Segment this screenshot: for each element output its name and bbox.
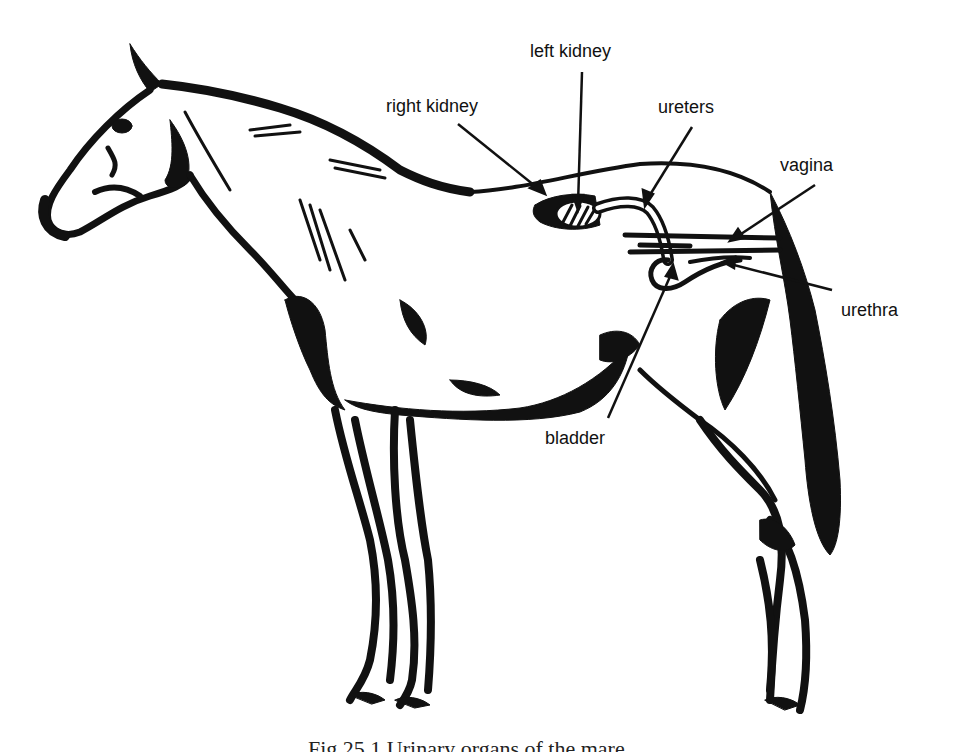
ear-shape: [130, 44, 162, 92]
front-legs: [335, 410, 431, 705]
diagram-canvas: left kidney right kidney ureters vagina …: [0, 0, 954, 752]
label-right-kidney: right kidney: [386, 97, 478, 115]
tail: [770, 192, 841, 555]
back-line: [470, 163, 770, 192]
neck-front: [190, 175, 295, 300]
label-ureters: ureters: [658, 98, 714, 116]
hind-legs: [700, 420, 806, 710]
head-outline: [47, 90, 190, 234]
label-vagina: vagina: [780, 156, 833, 174]
eye-shape: [112, 119, 132, 133]
belly-line: [345, 345, 630, 420]
figure-caption: Fig 25.1 Urinary organs of the mare: [308, 738, 625, 752]
label-left-kidney: left kidney: [530, 42, 611, 60]
label-urethra: urethra: [841, 301, 898, 319]
label-bladder: bladder: [545, 429, 605, 447]
vagina-tract: [625, 235, 780, 238]
